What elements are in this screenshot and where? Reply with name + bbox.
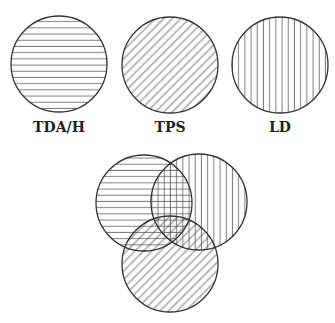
ld-label: LD [269, 119, 291, 135]
legend-ld: LD [232, 17, 328, 135]
ld-circle [232, 17, 328, 113]
venn-overlap [96, 154, 247, 312]
tps-label: TPS [154, 119, 185, 135]
legend-tdah: TDA/H [11, 16, 107, 135]
tps-circle [122, 17, 218, 113]
legend-tps: TPS [122, 17, 218, 135]
tdah-label: TDA/H [33, 119, 85, 135]
tdah-circle [11, 16, 107, 112]
venn-diagram: TDA/H TPS LD [0, 0, 335, 323]
